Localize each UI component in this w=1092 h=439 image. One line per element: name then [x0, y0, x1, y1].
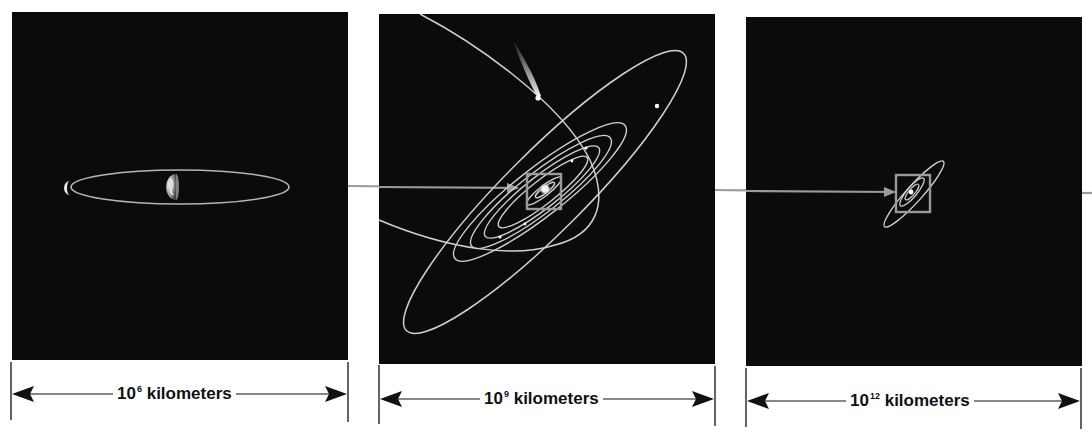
- scale-base: 10: [117, 384, 136, 403]
- panel-distant-solar-system: [746, 17, 1082, 366]
- panel-background: [12, 12, 348, 360]
- scale-exponent: 9: [504, 389, 509, 399]
- scale-diagram: [0, 0, 1092, 439]
- sun-icon: [539, 183, 551, 195]
- scale-exponent: 12: [870, 391, 880, 401]
- scale-label-2: 109 kilometers: [480, 389, 603, 411]
- scale-base: 10: [850, 391, 869, 410]
- scale-label-3: 1012 kilometers: [846, 391, 974, 413]
- panel-earth-moon: [12, 12, 348, 360]
- scale-unit: kilometers: [514, 389, 599, 408]
- sun-icon: [909, 190, 914, 195]
- scale-base: 10: [484, 389, 503, 408]
- panel-solar-system: [378, 14, 715, 364]
- scale-unit: kilometers: [147, 384, 232, 403]
- outer-planet: [655, 104, 659, 108]
- scale-unit: kilometers: [885, 391, 970, 410]
- scale-label-1: 106 kilometers: [113, 384, 236, 406]
- scale-exponent: 6: [137, 384, 142, 394]
